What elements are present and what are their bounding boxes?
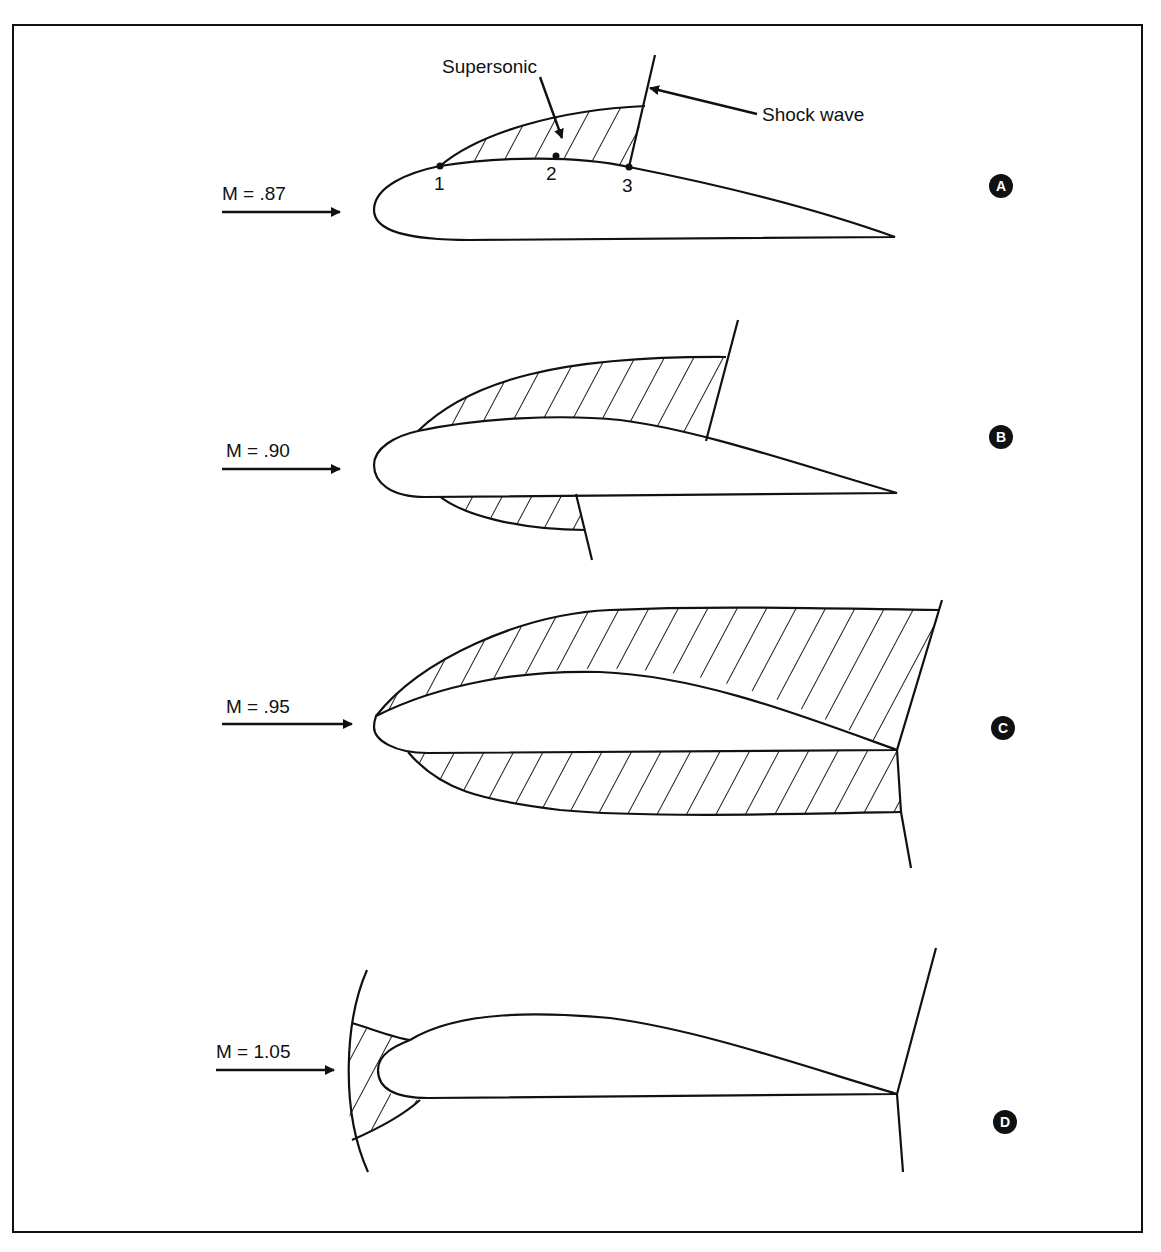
mach-label-a: M = .87 [222,183,286,204]
point-1-label: 1 [434,173,445,194]
panel-b: M = .90 B [222,320,1013,560]
mach-label-d: M = 1.05 [216,1041,290,1062]
panel-c: M = .95 C [222,600,1015,868]
shock-wave-pointer-arrow [650,88,757,114]
airfoil-b [374,417,897,497]
badge-c-letter: C [998,720,1008,736]
mach-label-c: M = .95 [226,696,290,717]
transonic-airfoil-diagram: 1 2 3 Supersonic Shock wave M = .87 A M … [0,0,1161,1252]
mach-label-b: M = .90 [226,440,290,461]
airfoil-a [374,159,895,240]
badge-a-letter: A [996,178,1006,194]
badge-d-letter: D [1000,1114,1010,1130]
point-2 [553,153,560,160]
trailing-edge-shock [897,948,936,1172]
point-3 [626,164,633,171]
point-3-label: 3 [622,175,633,196]
shock-wave-label: Shock wave [762,104,864,125]
supersonic-label: Supersonic [442,56,537,77]
panel-a: 1 2 3 Supersonic Shock wave M = .87 A [222,55,1013,240]
badge-b-letter: B [996,429,1006,445]
airfoil-d [378,1014,897,1098]
point-1 [437,163,444,170]
point-2-label: 2 [546,163,557,184]
panel-d: M = 1.05 D [216,948,1017,1172]
